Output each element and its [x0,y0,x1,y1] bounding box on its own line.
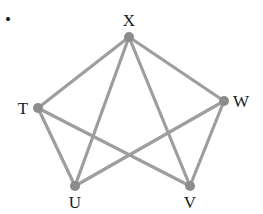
node-u [70,181,80,191]
node-w [219,96,229,106]
node-x [124,32,134,42]
node-label-t: T [18,99,29,118]
node-label-u: U [69,193,81,212]
nodes-group [33,32,229,191]
edge-t-v [38,108,190,186]
graph-svg: • XTWUV [0,0,263,214]
node-label-w: W [233,92,250,111]
edge-t-u [38,108,75,186]
node-v [185,181,195,191]
node-label-v: V [184,193,197,212]
bullet-marker: • [5,10,11,29]
node-t [33,103,43,113]
edge-w-v [190,101,224,186]
edge-w-u [75,101,224,186]
node-label-x: X [123,11,135,30]
graph-diagram: • XTWUV [0,0,263,214]
edges-group [38,37,224,186]
